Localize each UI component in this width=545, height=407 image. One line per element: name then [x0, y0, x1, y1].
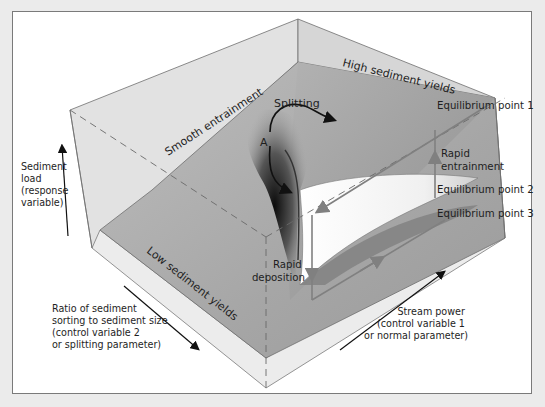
point-a-label: A	[260, 136, 268, 149]
equilibrium-point-2-label: Equilibrium point 2	[437, 184, 534, 195]
cusp-catastrophe-diagram: Smooth entrainment High sediment yields …	[0, 0, 545, 407]
splitting-label: Splitting	[274, 97, 320, 110]
equilibrium-point-1-label: Equilibrium point 1	[437, 100, 534, 111]
response-variable-label: Sediment load (response variable)	[21, 161, 71, 208]
equilibrium-point-3-label: Equilibrium point 3	[437, 208, 534, 219]
